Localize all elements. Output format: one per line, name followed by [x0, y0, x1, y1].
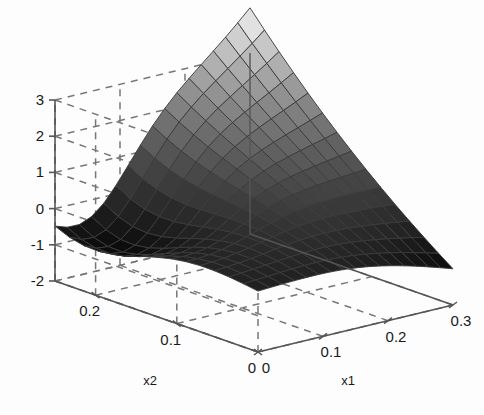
x2-tick-label: 0	[248, 359, 256, 376]
x2-axis-label: x2	[143, 373, 157, 388]
surface-plot-figure: 3210-1-200.10.200.10.20.3x2x1	[0, 0, 484, 415]
z-tick-label: 1	[36, 163, 44, 180]
x1-axis-label: x1	[341, 373, 355, 388]
x2-tick-label: 0.1	[160, 331, 181, 348]
x1-tick-label: 0.3	[451, 312, 472, 329]
x1-tick-label: 0	[262, 359, 270, 376]
x2-tick-label: 0.2	[79, 302, 100, 319]
x1-tick-label: 0.2	[386, 328, 407, 345]
x1-tick-label: 0.1	[321, 343, 342, 360]
z-tick-label: 3	[36, 91, 44, 108]
z-tick-label: 2	[36, 127, 44, 144]
z-tick-label: 0	[36, 200, 44, 217]
plot-canvas: 3210-1-200.10.200.10.20.3x2x1	[0, 0, 484, 415]
z-tick-label: -2	[31, 272, 44, 289]
surface-mesh	[55, 8, 453, 291]
z-tick-label: -1	[31, 236, 44, 253]
